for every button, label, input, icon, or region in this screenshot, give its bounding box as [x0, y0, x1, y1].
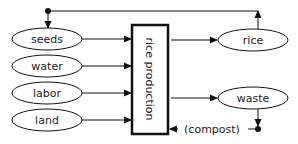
compost-label: (compost) — [184, 123, 240, 136]
input-label: water — [31, 60, 63, 73]
input-label: labor — [33, 87, 62, 100]
process-label: rice production — [143, 38, 156, 121]
waste-to-compost-feedback-arrow: (compost) — [170, 109, 261, 136]
input-arrows — [82, 39, 131, 120]
output-label: waste — [237, 92, 270, 105]
input-node-labor: labor — [12, 82, 82, 104]
rice-production-diagram: seeds water labor land rice production r… — [0, 0, 298, 144]
input-node-land: land — [12, 109, 82, 131]
input-node-seeds: seeds — [12, 28, 82, 50]
input-label: seeds — [31, 33, 63, 46]
output-node-rice: rice — [218, 29, 288, 51]
output-label: rice — [243, 34, 264, 47]
input-label: land — [35, 114, 59, 127]
output-node-waste: waste — [218, 87, 288, 109]
process-box-rice-production: rice production — [132, 25, 168, 134]
input-node-water: water — [12, 55, 82, 77]
